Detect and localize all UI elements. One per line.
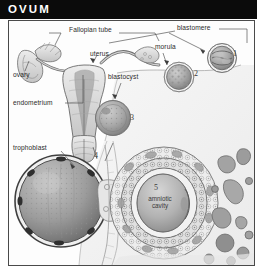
illustration-frame: Fallopian tube blastomere morula uterus …	[8, 20, 255, 266]
label-endometrium: endometrium	[13, 99, 53, 107]
label-blastomere: blastomere	[177, 24, 211, 32]
stage-number-4: 4	[94, 152, 98, 160]
stage-number-1: 1	[233, 50, 237, 58]
stage-number-2: 2	[194, 70, 198, 78]
illustration-artwork	[9, 21, 254, 265]
page-title: OVUM	[8, 3, 51, 16]
ovum-figure-page: OVUM	[0, 0, 257, 275]
header-bar: OVUM	[0, 0, 257, 19]
ovum-development-illustration	[9, 21, 254, 265]
stage-4-trophoblast-drawing	[15, 155, 107, 247]
label-ovary: ovary	[13, 71, 30, 79]
label-amniotic-cavity-line2: cavity	[133, 202, 187, 209]
stage-2-morula-drawing	[164, 62, 194, 92]
label-amniotic-cavity-line1: amniotic	[133, 195, 187, 202]
label-amniotic-cavity: amniotic cavity	[133, 195, 187, 209]
label-trophoblast: trophoblast	[13, 144, 47, 152]
label-uterus: uterus	[90, 50, 109, 58]
stage-3-blastocyst-drawing	[96, 101, 131, 136]
label-morula: morula	[155, 43, 176, 51]
stage-1-blastomere-drawing	[208, 44, 237, 73]
stage-number-5: 5	[154, 184, 158, 192]
stage-number-3: 3	[130, 114, 134, 122]
label-fallopian-tube: Fallopian tube	[69, 26, 112, 34]
label-blastocyst: blastocyst	[108, 73, 138, 81]
